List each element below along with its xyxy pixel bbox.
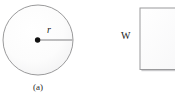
radius-label: r — [47, 25, 51, 35]
width-label: W — [121, 31, 130, 41]
rectangle-shape — [140, 8, 175, 70]
figure-canvas: r W (a) — [0, 0, 175, 100]
figure-graphics — [0, 0, 175, 100]
center-dot — [35, 37, 40, 42]
panel-a-caption: (a) — [33, 83, 43, 92]
